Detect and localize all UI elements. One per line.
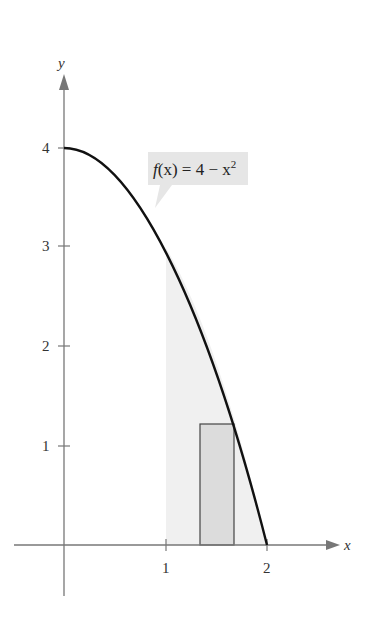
callout-exponent: 2: [231, 158, 237, 170]
y-tick-label-4: 4: [42, 140, 50, 156]
y-axis-arrow-icon: [59, 74, 69, 90]
function-plot: 1 2 x 1 2 3 4 y f(x) = 4 − x2: [0, 0, 384, 617]
x-axis-arrow-icon: [326, 540, 340, 550]
x-tick-label-2: 2: [263, 560, 271, 576]
y-tick-label-2: 2: [42, 338, 50, 354]
svg-text:f(x) = 4 − x2: f(x) = 4 − x2: [153, 158, 236, 179]
y-axis-label: y: [56, 55, 65, 71]
x-tick-label-1: 1: [162, 560, 170, 576]
function-callout: f(x) = 4 − x2: [148, 152, 248, 208]
approximating-rectangle: [200, 424, 234, 545]
callout-body: (x) = 4 − x: [158, 160, 231, 179]
x-axis-label: x: [343, 537, 351, 553]
y-tick-label-1: 1: [42, 438, 50, 454]
y-tick-label-3: 3: [42, 238, 50, 254]
